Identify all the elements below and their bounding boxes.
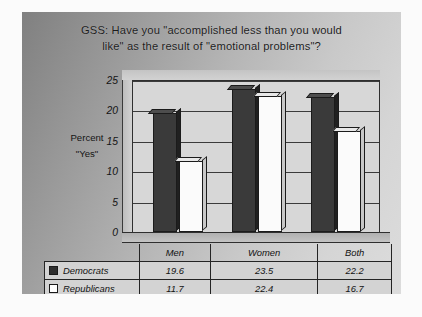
cell-democrats-both: 22.2 (318, 262, 392, 280)
cell-democrats-men: 19.6 (140, 262, 211, 280)
plot-area (132, 80, 380, 232)
table-corner-cell (45, 244, 140, 262)
presentation-slide: GSS: Have you "accomplished less than yo… (22, 12, 401, 294)
table-row: Democrats 19.6 23.5 22.2 (45, 262, 392, 280)
bar-group-both (311, 80, 367, 232)
y-tick-10: 10 (78, 166, 118, 177)
bar-democrats-women (232, 89, 256, 232)
bar-chart: 25 20 15 10 5 0 (122, 70, 390, 246)
plot-floor-depth (122, 232, 390, 243)
bar-group-men (153, 80, 209, 232)
legend-item-republicans: Republicans (45, 280, 140, 295)
chart-title-line-2: like" as the result of "emotional proble… (22, 38, 401, 54)
plot-top-depth (122, 70, 380, 80)
table-header-women: Women (210, 244, 317, 262)
legend-label-republicans: Republicans (63, 283, 115, 294)
y-tick-25: 25 (78, 75, 118, 86)
bar-group-women (232, 80, 288, 232)
screenshot-canvas: GSS: Have you "accomplished less than yo… (0, 0, 422, 317)
y-axis-title-line-2: "Yes" (50, 146, 124, 162)
plot-left-wall (122, 80, 132, 232)
legend-label-democrats: Democrats (63, 265, 108, 276)
cell-democrats-women: 23.5 (210, 262, 317, 280)
table-header-men: Men (140, 244, 211, 262)
table-header-both: Both (318, 244, 392, 262)
chart-title-line-1: GSS: Have you "accomplished less than yo… (81, 24, 342, 36)
bar-republicans-men (179, 161, 203, 232)
cell-republicans-women: 22.4 (210, 280, 317, 295)
legend-item-democrats: Democrats (45, 262, 140, 280)
y-tick-20: 20 (78, 105, 118, 116)
bar-republicans-women (258, 96, 282, 232)
chart-data-table: Men Women Both Democrats 19.6 23.5 22.2 … (44, 244, 392, 294)
cell-republicans-men: 11.7 (140, 280, 211, 295)
filled-square-icon (49, 266, 58, 275)
cell-republicans-both: 16.7 (318, 280, 392, 295)
table-row: Republicans 11.7 22.4 16.7 (45, 280, 392, 295)
chart-title: GSS: Have you "accomplished less than yo… (22, 22, 401, 54)
bar-republicans-both (337, 131, 361, 233)
y-tick-0: 0 (78, 227, 118, 238)
bar-democrats-men (153, 113, 177, 232)
bar-democrats-both (311, 97, 335, 232)
y-tick-5: 5 (78, 196, 118, 207)
table-header-row: Men Women Both (45, 244, 392, 262)
y-tick-15: 15 (78, 135, 118, 146)
empty-square-icon (49, 284, 58, 293)
